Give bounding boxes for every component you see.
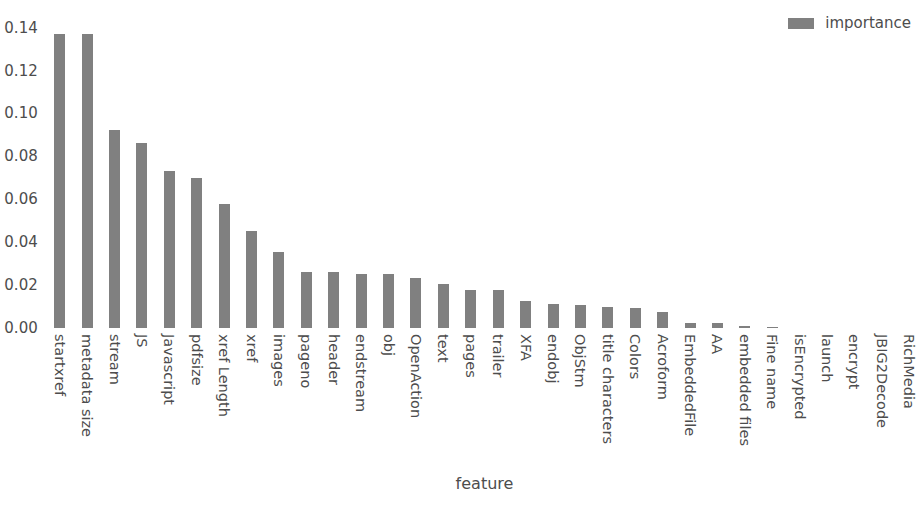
bar[interactable] — [54, 34, 65, 328]
bar-slot — [676, 19, 703, 328]
x-axis-tick-label: pageno — [299, 334, 314, 388]
x-axis-tick-label: xref Length — [217, 334, 232, 417]
x-axis-tick-label: AA — [710, 334, 725, 354]
x-axis-tick-label: Colors — [628, 334, 643, 379]
bar[interactable] — [164, 171, 175, 328]
bar[interactable] — [219, 204, 230, 328]
bar[interactable] — [548, 304, 559, 328]
x-tick-slot: ObjStm — [567, 332, 594, 472]
x-axis-tick-label: encrypt — [847, 334, 862, 390]
bar[interactable] — [767, 327, 778, 329]
x-axis-tick-label: pdfsize — [189, 334, 204, 386]
x-tick-slot: text — [430, 332, 457, 472]
bar[interactable] — [739, 326, 750, 328]
y-axis-tick-label: 0.06 — [4, 190, 38, 208]
x-axis-title: feature — [46, 474, 923, 493]
bar-slot — [622, 19, 649, 328]
bar[interactable] — [657, 312, 668, 328]
y-axis: 0.000.020.040.060.080.100.120.14 — [0, 0, 46, 507]
legend-swatch-importance — [788, 18, 814, 29]
bar-slot — [731, 19, 758, 328]
bar[interactable] — [356, 274, 367, 328]
bar[interactable] — [465, 290, 476, 328]
bar[interactable] — [191, 178, 202, 328]
x-axis-tick-label: obj — [381, 334, 396, 356]
x-axis-tick-labels: startxrefmetadata sizestreamJSJavascript… — [46, 332, 923, 472]
bar[interactable] — [602, 307, 613, 328]
x-axis-tick-label: JS — [135, 334, 150, 347]
bar[interactable] — [438, 284, 449, 328]
bar-slot — [786, 19, 813, 328]
x-axis-tick-label: images — [272, 334, 287, 387]
bar-slot — [293, 19, 320, 328]
bar[interactable] — [246, 231, 257, 328]
bar[interactable] — [383, 274, 394, 328]
bar-slot — [73, 19, 100, 328]
bar[interactable] — [273, 252, 284, 328]
x-axis-tick-label: header — [327, 334, 342, 385]
bar[interactable] — [520, 301, 531, 328]
x-tick-slot: EmbeddedFile — [676, 332, 703, 472]
bar[interactable] — [493, 290, 504, 328]
x-axis-tick-label: title characters — [601, 334, 616, 444]
bar[interactable] — [685, 323, 696, 328]
x-tick-slot: RichMedia — [896, 332, 923, 472]
bar[interactable] — [82, 34, 93, 328]
x-axis-tick-label: startxref — [52, 334, 67, 396]
x-tick-slot: pdfsize — [183, 332, 210, 472]
bar-slot — [759, 19, 786, 328]
bar-series-importance — [46, 19, 923, 328]
x-tick-slot: pages — [457, 332, 484, 472]
x-axis-tick-label: pages — [464, 334, 479, 378]
x-tick-slot: title characters — [594, 332, 621, 472]
x-tick-slot: endobj — [539, 332, 566, 472]
x-tick-slot: Colors — [622, 332, 649, 472]
x-tick-slot: startxref — [46, 332, 73, 472]
x-tick-slot: isEncrypted — [786, 332, 813, 472]
x-axis-tick-label: EmbeddedFile — [683, 334, 698, 436]
x-axis-tick-label: Javascript — [162, 334, 177, 405]
bar-slot — [485, 19, 512, 328]
bar[interactable] — [630, 308, 641, 328]
y-axis-tick-label: 0.02 — [4, 276, 38, 294]
bar-slot — [704, 19, 731, 328]
bar-chart-figure: 0.000.020.040.060.080.100.120.14 startxr… — [0, 0, 923, 507]
x-axis-tick-label: XFA — [518, 334, 533, 361]
bar[interactable] — [109, 130, 120, 328]
x-tick-slot: XFA — [512, 332, 539, 472]
x-axis-tick-label: Fine name — [765, 334, 780, 409]
bar[interactable] — [575, 305, 586, 328]
bar[interactable] — [301, 272, 312, 328]
bar-slot — [46, 19, 73, 328]
bar-slot — [265, 19, 292, 328]
legend: importance — [782, 10, 917, 36]
x-tick-slot: Javascript — [156, 332, 183, 472]
x-tick-slot: launch — [813, 332, 840, 472]
x-axis-tick-label: stream — [107, 334, 122, 385]
x-axis-tick-label: launch — [820, 334, 835, 382]
x-tick-slot: images — [265, 332, 292, 472]
y-axis-tick-label: 0.04 — [4, 233, 38, 251]
bar[interactable] — [328, 272, 339, 328]
x-tick-slot: JS — [128, 332, 155, 472]
y-axis-tick-label: 0.14 — [4, 19, 38, 37]
bar-slot — [156, 19, 183, 328]
bar-slot — [375, 19, 402, 328]
x-tick-slot: pageno — [293, 332, 320, 472]
x-axis-tick-label: Acroform — [655, 334, 670, 400]
legend-label-importance: importance — [825, 14, 911, 32]
bar-slot — [841, 19, 868, 328]
bar[interactable] — [712, 323, 723, 328]
bar[interactable] — [136, 143, 147, 328]
bar-slot — [402, 19, 429, 328]
x-axis-tick-label: xref — [244, 334, 259, 362]
bar-slot — [567, 19, 594, 328]
x-axis-tick-label: endobj — [546, 334, 561, 383]
bar-slot — [896, 19, 923, 328]
x-tick-slot: encrypt — [841, 332, 868, 472]
x-axis-tick-label: text — [436, 334, 451, 363]
bar[interactable] — [410, 278, 421, 328]
x-tick-slot: AA — [704, 332, 731, 472]
x-axis-tick-label: RichMedia — [902, 334, 917, 409]
x-tick-slot: Acroform — [649, 332, 676, 472]
